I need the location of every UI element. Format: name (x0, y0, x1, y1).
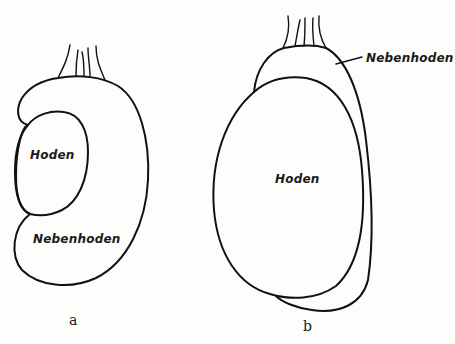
caption-a: a (69, 312, 77, 328)
label-testis-a: Hoden (30, 148, 75, 162)
spermatic-cord-a (58, 45, 105, 80)
label-epididymis-a: Nebenhoden (33, 232, 121, 246)
epididymis-outline-a (14, 76, 148, 285)
diagram-canvas: Hoden Nebenhoden a Hoden Nebenhoden b (0, 0, 455, 344)
testis-outline-a (15, 112, 88, 216)
testis-outline-b (213, 77, 363, 297)
label-testis-b: Hoden (275, 172, 320, 186)
caption-b: b (303, 318, 312, 334)
spermatic-cord-b (283, 16, 326, 48)
label-epididymis-b: Nebenhoden (366, 51, 454, 65)
